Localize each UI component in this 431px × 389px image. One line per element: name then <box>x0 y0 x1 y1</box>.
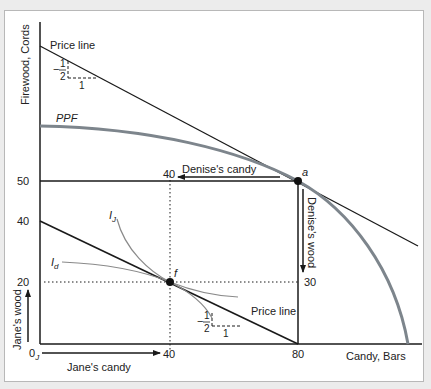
price-line-top <box>40 46 418 246</box>
indifference-curve-denise <box>62 262 238 297</box>
tick-x-40-top: 40 <box>163 168 175 180</box>
slope-top-run-label: 1 <box>79 80 85 91</box>
tick-x-40-bottom: 40 <box>163 348 175 360</box>
id-label: Id <box>51 256 59 271</box>
tick-y-20: 20 <box>17 276 29 288</box>
denise-candy-label: Denise's candy <box>182 163 257 175</box>
point-a-label: a <box>302 166 308 178</box>
ij-label: IJ <box>109 209 117 224</box>
tick-y-40: 40 <box>17 215 29 227</box>
trade-diagram: Firewood, Cords Candy, Bars Price line P… <box>0 0 431 389</box>
tick-x-80: 80 <box>292 348 304 360</box>
price-line-top-label: Price line <box>50 39 95 51</box>
slope-bottom-run-label: 1 <box>223 328 229 339</box>
denise-wood-label: Denise's wood <box>306 197 318 268</box>
x-axis-label: Candy, Bars <box>346 350 406 362</box>
slope-top-num: 1 <box>60 58 66 69</box>
jane-wood-label: Jane's wood <box>11 289 23 350</box>
price-line-bottom-label: Price line <box>251 305 296 317</box>
y-axis-label: Firewood, Cords <box>19 24 31 105</box>
point-f-label: f <box>174 267 178 279</box>
slope-top-minus: − <box>53 63 59 75</box>
origin-label: 0J <box>29 347 40 362</box>
indifference-curve-jane <box>117 219 212 318</box>
slope-top-den: 2 <box>60 71 66 82</box>
ppf-label: PPF <box>56 112 79 124</box>
point-f <box>166 278 174 286</box>
slope-bottom-minus: − <box>197 315 203 327</box>
slope-bottom-den: 2 <box>204 323 210 334</box>
jane-candy-label: Jane's candy <box>67 361 131 373</box>
tick-y-50: 50 <box>17 175 29 187</box>
slope-bottom-num: 1 <box>204 310 210 321</box>
tick-denise-wood-30: 30 <box>304 276 316 288</box>
ppf-curve <box>40 126 408 344</box>
point-a <box>294 177 302 185</box>
